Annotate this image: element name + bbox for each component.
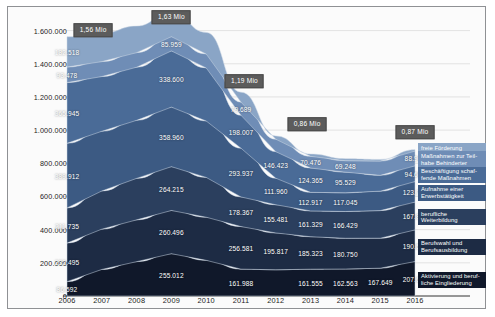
total-callout: 1,63 Mio — [152, 10, 191, 24]
data-point-label: 198.007 — [229, 128, 254, 135]
total-callout: 0,87 Mio — [396, 125, 435, 139]
data-point-label: 338.600 — [159, 76, 184, 83]
x-axis-tick: 2012 — [267, 296, 284, 305]
data-point-label: 365.945 — [55, 109, 80, 116]
total-callout: 1,56 Mio — [74, 23, 113, 37]
data-point-label: 162.563 — [333, 279, 358, 286]
data-point-label: 185.323 — [298, 249, 323, 256]
x-axis-tick: 2007 — [93, 296, 110, 305]
x-axis-tick: 2008 — [128, 296, 145, 305]
data-point-label: 293.937 — [229, 169, 254, 176]
data-point-label: 161.329 — [298, 220, 323, 227]
data-point-label: 260.496 — [159, 229, 184, 236]
data-point-label: 117.045 — [333, 199, 357, 206]
data-point-label: 195.817 — [264, 248, 289, 255]
y-axis-tick: 600.000 — [40, 192, 67, 201]
y-axis-tick: 800.000 — [40, 159, 67, 168]
legend-item: beruflicheWeiterbildung — [418, 209, 486, 225]
x-axis-tick: 2016 — [406, 296, 423, 305]
data-point-label: 264.215 — [159, 185, 184, 192]
legend-item: Beschäftigung schaf-fende Maßnahmen — [418, 167, 486, 183]
data-point-label: 256.581 — [229, 244, 254, 251]
x-axis-tick: 2014 — [337, 296, 354, 305]
legend-item: Maßnahmen zur Teil-habe Behinderter — [418, 151, 486, 167]
total-callout: 1,19 Mio — [225, 74, 264, 88]
data-point-label: 389.912 — [55, 172, 80, 179]
data-point-label: 211.735 — [55, 222, 79, 229]
data-point-label: 255.012 — [159, 271, 184, 278]
data-point-label: 124.365 — [298, 177, 323, 184]
x-axis-tick: 2010 — [198, 296, 215, 305]
data-point-label: 161.988 — [229, 279, 254, 286]
data-point-label: 112.917 — [299, 198, 323, 205]
total-callout: 0,86 Mio — [288, 117, 327, 131]
data-point-label: 146.423 — [264, 161, 289, 168]
x-axis-tick: 2006 — [58, 296, 75, 305]
x-axis-tick: 2011 — [233, 296, 250, 305]
data-point-label: 167.649 — [368, 279, 393, 286]
legend-item: Aufnahme einerErwerbstätigkeit — [418, 185, 486, 201]
data-point-label: 155.481 — [264, 215, 289, 222]
data-point-label: 85.959 — [161, 40, 182, 47]
y-axis-tick: 1.000.000 — [34, 126, 67, 135]
x-axis: 2006200720082009201020112012201320142015… — [0, 296, 495, 310]
data-point-label: 182.518 — [55, 48, 80, 55]
y-axis-tick: 1.400.000 — [34, 59, 67, 68]
data-point-label: 232.495 — [55, 259, 80, 266]
data-point-label: 93.478 — [57, 71, 78, 78]
data-point-label: 69.248 — [335, 163, 356, 170]
data-point-label: 70.476 — [300, 159, 321, 166]
data-point-label: 95.529 — [335, 179, 356, 186]
data-point-label: 111.960 — [264, 188, 288, 195]
data-point-label: 79.689 — [231, 105, 252, 112]
y-axis-tick: 1.200.000 — [34, 92, 67, 101]
data-point-label: 86.592 — [57, 285, 78, 292]
x-axis-tick: 2015 — [372, 296, 389, 305]
y-axis-tick: 1.600.000 — [34, 26, 67, 35]
data-point-label: 180.750 — [333, 250, 358, 257]
legend-item: Aktivierung und beruf-liche Eingliederun… — [418, 272, 486, 288]
data-point-label: 178.367 — [229, 208, 254, 215]
x-axis-tick: 2009 — [163, 296, 180, 305]
data-point-label: 166.429 — [333, 221, 358, 228]
data-point-label: 161.555 — [298, 279, 323, 286]
legend-item: Berufswahl undBerufsausbildung — [418, 239, 486, 255]
data-point-label: 358.960 — [159, 133, 184, 140]
x-axis-tick: 2013 — [302, 296, 319, 305]
